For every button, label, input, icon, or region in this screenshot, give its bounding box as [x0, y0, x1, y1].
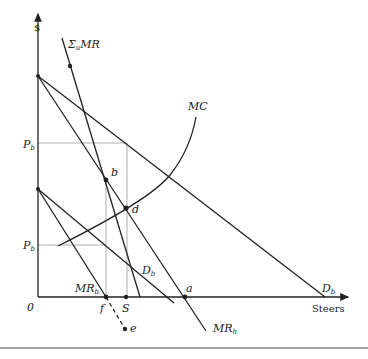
- point-f-label: f: [99, 302, 106, 315]
- economics-diagram: $ Steers 0 Pb Pb ΣuMR MC Db Db MRb MRh b…: [0, 0, 368, 359]
- lower-intercept-point: [36, 187, 40, 191]
- big-demand-label: Db: [321, 282, 336, 296]
- point-d: [123, 205, 128, 210]
- mr-b-curve: [38, 189, 106, 297]
- sum-mr-curve: [62, 38, 140, 297]
- point-s-label: S: [122, 302, 130, 315]
- point-f: [104, 295, 109, 300]
- point-a-label: a: [186, 282, 193, 295]
- small-demand-label: Db: [141, 264, 156, 278]
- x-axis-label: Steers: [312, 303, 345, 314]
- sum-mr-label: ΣuMR: [67, 38, 100, 52]
- point-e-label: e: [130, 322, 137, 335]
- point-b: [104, 178, 109, 183]
- point-b-label: b: [111, 166, 118, 179]
- mr-h-label: MRh: [212, 322, 237, 336]
- mr-h-curve: [38, 76, 206, 331]
- upper-price-label: Pb: [22, 138, 35, 152]
- point-d-label: d: [132, 203, 139, 216]
- point-s: [124, 295, 128, 299]
- point-a: [183, 295, 188, 300]
- y-axis-label: $: [34, 22, 40, 33]
- mr-b-label: MRb: [74, 282, 100, 296]
- origin-label: 0: [27, 301, 34, 314]
- point-e: [123, 327, 127, 331]
- big-demand-curve: [38, 76, 325, 297]
- sum-mr-point: [68, 64, 72, 68]
- lower-price-label: Pb: [22, 239, 35, 253]
- mc-label: MC: [187, 100, 208, 113]
- upper-intercept-point: [36, 74, 40, 78]
